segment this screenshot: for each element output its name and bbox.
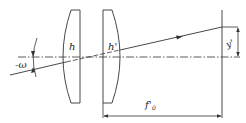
lens-second xyxy=(103,10,120,103)
ray-direction-arrow-icon xyxy=(176,36,183,40)
label-field-angle: -ω xyxy=(15,59,27,70)
label-h: h xyxy=(69,41,75,52)
label-focal-length-sub: 0 xyxy=(152,104,156,111)
label-h-prime: h' xyxy=(108,41,117,52)
chief-ray-outgoing xyxy=(120,27,222,50)
label-image-height: y' xyxy=(224,38,235,50)
lens-diagram: -ω h h' y' f' 0 xyxy=(0,0,246,123)
field-angle-arrow-top-icon xyxy=(31,51,35,57)
label-focal-length: f' xyxy=(144,99,151,110)
lens-first xyxy=(63,10,80,103)
